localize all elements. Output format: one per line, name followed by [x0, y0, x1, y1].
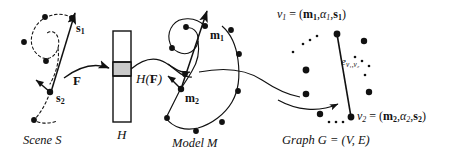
model-point [228, 27, 234, 33]
graph-vertex-v2 [348, 114, 355, 121]
graph-vertex [361, 38, 367, 44]
graph-vertex [366, 89, 372, 95]
scene-point [21, 39, 27, 45]
graph-dot-small [292, 51, 295, 54]
graph-edge-v1-v2 [337, 34, 351, 117]
label-edge-e-v1-v2: ev₁,v₂ [341, 56, 359, 69]
graph-vertex [303, 91, 310, 98]
scene-point [31, 117, 37, 123]
model-point [169, 45, 175, 51]
model-point [183, 24, 189, 30]
label-F: F [73, 74, 81, 87]
caption-model: Model M [172, 137, 217, 150]
figure-geometric-hashing-diagram: s1 s2 Scene S F H(F) H m1 m2 Model M v1 … [0, 0, 462, 157]
model-point [182, 71, 188, 77]
scene-point [69, 15, 75, 21]
caption-hash-table: H [117, 128, 126, 141]
hash-table-highlighted-cell [113, 62, 131, 76]
arrow-F-to-hash [64, 66, 109, 78]
scene-point [42, 14, 48, 20]
graph-dot-small [309, 39, 312, 42]
label-H-of-F: H(F) [136, 72, 162, 85]
graph-dot-small [342, 121, 345, 124]
graph-dot-small [364, 74, 367, 77]
caption-scene: Scene S [23, 134, 62, 147]
label-s2: s2 [56, 92, 65, 106]
model-point [236, 51, 242, 57]
label-vertex-v1: v1 = (m1,α1,s1) [277, 8, 346, 22]
scene-shape-group [21, 13, 75, 123]
graph-dot-small [361, 60, 364, 63]
graph-vertex [303, 67, 310, 74]
model-point [219, 119, 225, 125]
graph-dot-small [316, 35, 319, 38]
caption-graph: Graph G = (V, E) [282, 134, 370, 147]
graph-dot-small [328, 121, 331, 124]
graph-dot-small [302, 43, 305, 46]
model-axis-arrow [181, 11, 207, 89]
scene-point [43, 58, 49, 64]
hash-table-group [113, 31, 131, 122]
model-point-m1 [202, 23, 208, 29]
graph-dot-small [335, 121, 338, 124]
arrow-model-to-graph-tail [199, 70, 300, 97]
scene-contour-lower [34, 92, 57, 123]
label-s1: s1 [76, 22, 85, 36]
graph-vertex-v1 [334, 31, 341, 38]
scene-contour-upper [31, 14, 72, 58]
diagram-canvas [0, 0, 462, 157]
model-point [164, 115, 170, 121]
label-m1: m1 [210, 29, 224, 43]
model-contour-lower [166, 26, 239, 129]
label-vertex-v2: v2 = (m2,α2,s2) [357, 110, 426, 124]
arrow-into-graph [278, 100, 338, 109]
model-point [193, 128, 199, 134]
scene-point-s2 [47, 89, 53, 95]
model-point-m2 [178, 86, 184, 92]
model-point [235, 88, 241, 94]
scene-contour-mid [50, 48, 58, 84]
graph-dot-small [368, 65, 371, 68]
graph-vertex [317, 111, 323, 117]
scene-axis-arrow [51, 13, 75, 92]
label-m2: m2 [185, 92, 199, 106]
